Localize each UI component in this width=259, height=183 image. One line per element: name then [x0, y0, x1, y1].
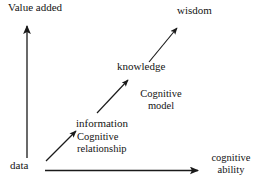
stage-label-information: information: [76, 118, 128, 130]
arrow-data-to-information: [46, 131, 76, 161]
process-label-cognitive-relationship-line1: Cognitive: [77, 131, 149, 143]
arrow-knowledge-to-wisdom: [149, 28, 177, 62]
x-axis-label-line2: ability: [205, 164, 257, 176]
stage-label-data: data: [10, 160, 28, 172]
x-axis-label: cognitive ability: [205, 152, 257, 176]
process-label-cognitive-model-line2: model: [131, 100, 191, 112]
dikw-diagram: Value added cognitive ability data infor…: [0, 0, 259, 183]
process-label-cognitive-relationship: Cognitive relationship: [77, 131, 149, 155]
y-axis-label: Value added: [8, 2, 62, 14]
process-label-cognitive-relationship-line2: relationship: [77, 143, 149, 155]
arrow-information-to-knowledge: [97, 80, 128, 113]
process-label-cognitive-model: Cognitive model: [131, 88, 191, 112]
x-axis-label-line1: cognitive: [205, 152, 257, 164]
process-label-cognitive-model-line1: Cognitive: [131, 88, 191, 100]
stage-label-wisdom: wisdom: [177, 5, 212, 17]
stage-label-knowledge: knowledge: [117, 61, 165, 73]
